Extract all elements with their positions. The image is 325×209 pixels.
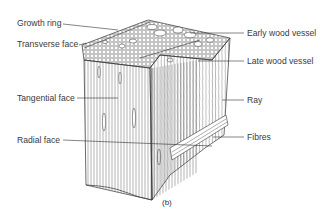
- front-face-shape: [84, 60, 161, 200]
- label-growth-ring: Growth ring: [17, 18, 61, 28]
- side-face-shape: [150, 38, 230, 200]
- label-transverse-face: Transverse face: [17, 39, 78, 49]
- label-fibres: Fibres: [247, 132, 271, 142]
- label-late-wood-vessel: Late wood vessel: [247, 56, 313, 66]
- label-early-wood-vessel: Early wood vessel: [247, 28, 316, 38]
- figure-caption: (b): [162, 198, 172, 207]
- label-tangential-face: Tangential face: [17, 93, 75, 103]
- label-radial-face: Radial face: [17, 135, 60, 145]
- label-ray: Ray: [247, 95, 262, 105]
